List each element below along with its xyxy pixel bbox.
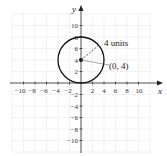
svg-text:−2: −2 bbox=[71, 91, 79, 99]
svg-text:−4: −4 bbox=[52, 87, 60, 95]
svg-text:4: 4 bbox=[102, 87, 106, 95]
svg-text:2: 2 bbox=[91, 87, 95, 95]
y-axis-arrow-icon bbox=[79, 5, 84, 11]
svg-text:10: 10 bbox=[136, 87, 144, 95]
svg-text:−4: −4 bbox=[71, 103, 79, 111]
y-axis-label: y bbox=[71, 4, 76, 14]
svg-text:10: 10 bbox=[71, 22, 79, 30]
svg-text:−10: −10 bbox=[67, 137, 78, 145]
center-leader-line bbox=[81, 60, 109, 65]
svg-text:6: 6 bbox=[75, 45, 79, 53]
x-axis-arrow-icon bbox=[157, 81, 163, 86]
x-axis-label: x bbox=[157, 86, 162, 96]
svg-text:6: 6 bbox=[114, 87, 118, 95]
circle-graph: −10 −8 −6 −4 −2 2 4 6 8 10 10 8 6 4 2 −2… bbox=[0, 0, 167, 156]
svg-text:2: 2 bbox=[75, 68, 79, 76]
svg-text:−10: −10 bbox=[15, 87, 26, 95]
svg-text:−8: −8 bbox=[28, 87, 36, 95]
svg-text:−8: −8 bbox=[71, 126, 79, 134]
svg-text:4: 4 bbox=[75, 57, 79, 65]
radius-line bbox=[81, 45, 99, 60]
axes bbox=[10, 8, 160, 153]
x-tick-labels: −10 −8 −6 −4 −2 2 4 6 8 10 bbox=[15, 87, 143, 95]
radius-label: 4 units bbox=[104, 38, 129, 48]
svg-text:8: 8 bbox=[125, 87, 129, 95]
svg-text:−6: −6 bbox=[40, 87, 48, 95]
svg-text:−6: −6 bbox=[71, 114, 79, 122]
center-label: (0, 4) bbox=[109, 61, 129, 71]
